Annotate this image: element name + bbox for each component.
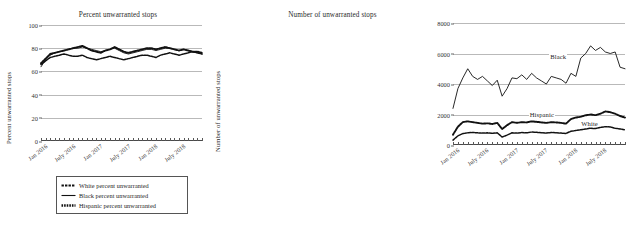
x-tick-label: July 2017 xyxy=(108,143,131,163)
y-tick-label: 0 xyxy=(447,142,450,149)
x-tick-label: July 2017 xyxy=(526,147,549,167)
x-tick-label: July 2018 xyxy=(585,147,608,167)
series-annotation-white: White xyxy=(580,119,599,126)
series-line xyxy=(453,127,625,140)
x-tick-label: Jan 2018 xyxy=(557,147,579,166)
y-tick-label: 0 xyxy=(35,138,38,145)
x-tick-label: Jan 2017 xyxy=(498,147,520,166)
x-tick-label: July 2016 xyxy=(53,143,76,163)
x-tick-mark xyxy=(202,138,203,141)
y-tick-label: 6000 xyxy=(437,50,450,57)
y-tick-label: 40 xyxy=(32,91,38,98)
y-tick-label: 20 xyxy=(32,114,38,121)
series-layer xyxy=(41,25,202,141)
legend-label: Hispanic percent unwarranted xyxy=(79,202,156,209)
y-tick-label: 8000 xyxy=(437,20,450,27)
y-tick-label: 100 xyxy=(28,22,38,29)
y-tick-label: 4000 xyxy=(437,81,450,88)
dotted-thick-line-marker xyxy=(61,202,76,209)
y-axis-label-percent: Percent unwarranted stops xyxy=(5,34,12,144)
x-tick-label: July 2016 xyxy=(467,147,490,167)
legend-item: Hispanic percent unwarranted xyxy=(61,200,183,210)
series-line xyxy=(453,46,625,109)
series-annotation-hispanic: Hispanic xyxy=(529,110,555,117)
chart-title-number: Number of unwarranted stops xyxy=(208,11,441,19)
legend-item: Black percent unwarranted xyxy=(61,190,183,200)
legend-item: White percent unwarranted xyxy=(61,180,183,190)
y-tick-label: 80 xyxy=(32,45,38,52)
x-axis-labels-number: Jan 2016July 2016Jan 2017July 2017Jan 20… xyxy=(453,145,625,179)
x-tick-label: Jan 2017 xyxy=(82,143,104,162)
series-line xyxy=(41,52,202,65)
y-axis-label-number: Number of unwarranted stops xyxy=(214,26,221,152)
plot-area-number: Jan 2016July 2016Jan 2017July 2017Jan 20… xyxy=(453,23,625,145)
chart-panel-number: Number of unwarranted stops Number of un… xyxy=(208,0,425,231)
plot-area-percent: Jan 2016July 2016Jan 2017July 2017Jan 20… xyxy=(41,25,202,141)
series-layer xyxy=(453,23,625,145)
x-tick-label: Jan 2018 xyxy=(138,143,160,162)
legend-label: Black percent unwarranted xyxy=(79,192,148,199)
y-tick-label: 2000 xyxy=(437,111,450,118)
x-tick-label: Jan 2016 xyxy=(439,147,461,166)
y-tick-label: 60 xyxy=(32,68,38,75)
x-tick-label: Jan 2016 xyxy=(27,143,49,162)
x-tick-label: July 2018 xyxy=(163,143,186,163)
x-axis-labels-percent: Jan 2016July 2016Jan 2017July 2017Jan 20… xyxy=(41,141,202,175)
legend-box: White percent unwarrantedBlack percent u… xyxy=(56,176,188,214)
series-annotation-black: Black xyxy=(549,52,567,59)
solid-line-marker xyxy=(61,192,76,199)
legend-label: White percent unwarranted xyxy=(79,182,149,189)
chart-title-percent: Percent unwarranted stops xyxy=(0,11,222,19)
dashed-line-marker xyxy=(61,182,76,189)
